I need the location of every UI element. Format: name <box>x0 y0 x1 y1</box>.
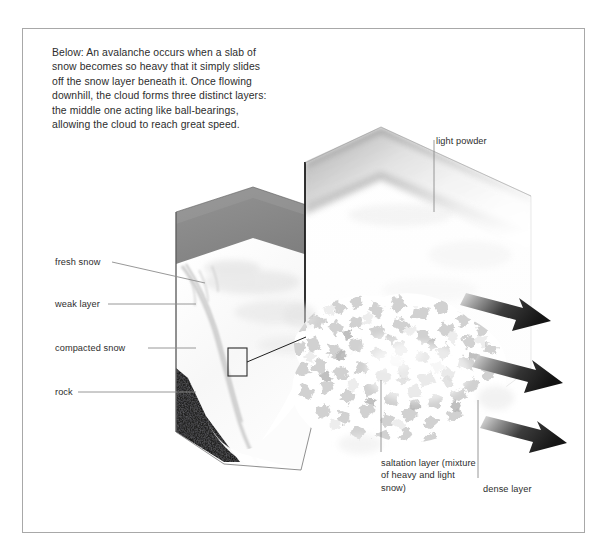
label-dense-layer: dense layer <box>483 483 532 495</box>
label-weak-layer: weak layer <box>55 298 100 310</box>
label-fresh-snow: fresh snow <box>55 256 100 268</box>
label-rock: rock <box>55 386 73 398</box>
avalanche-figure: Below: An avalanche occurs when a slab o… <box>0 0 609 560</box>
label-light-powder: light powder <box>436 135 487 147</box>
motion-arrow-3 <box>480 416 567 453</box>
label-saltation-layer: saltation layer (mixture of heavy and li… <box>381 457 477 494</box>
figure-caption: Below: An avalanche occurs when a slab o… <box>52 46 267 132</box>
label-compacted-snow: compacted snow <box>55 342 125 354</box>
